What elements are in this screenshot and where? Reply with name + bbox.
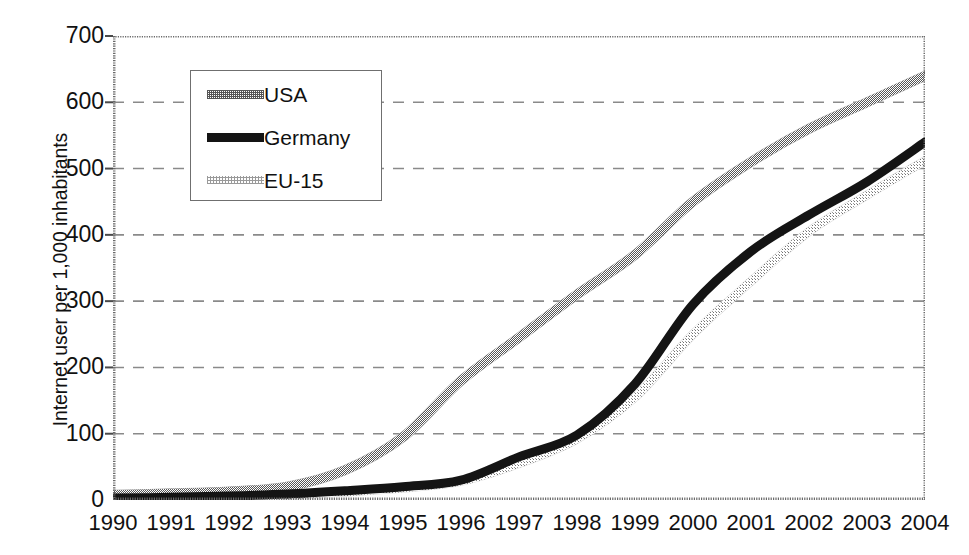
chart-figure: Internet user per 1,000 inhabitants 0100… — [0, 0, 969, 555]
y-tick-700: 700 — [32, 24, 104, 47]
y-tick-500: 500 — [32, 157, 104, 180]
x-tick-2004: 2004 — [885, 512, 965, 534]
y-tick-300: 300 — [32, 289, 104, 312]
legend-label-eu15: EU-15 — [264, 170, 324, 191]
legend-swatch-germany — [207, 133, 264, 142]
series-line-eu-15 — [113, 161, 925, 499]
y-tick-0: 0 — [32, 488, 104, 511]
legend-item-germany[interactable]: Germany — [191, 120, 383, 154]
legend-swatch-usa — [207, 90, 264, 99]
y-axis-tick-labels: 0100200300400500600700 — [28, 0, 104, 555]
legend: USA Germany EU-15 — [190, 70, 382, 201]
legend-label-germany: Germany — [264, 127, 350, 148]
legend-swatch-eu15 — [207, 176, 264, 184]
y-tick-200: 200 — [32, 355, 104, 378]
y-tick-600: 600 — [32, 90, 104, 113]
legend-item-usa[interactable]: USA — [191, 77, 383, 111]
legend-label-usa: USA — [264, 84, 307, 105]
legend-item-eu15[interactable]: EU-15 — [191, 163, 383, 197]
x-axis-tick-labels: 1990199119921993199419951996199719981999… — [0, 512, 969, 552]
y-tick-400: 400 — [32, 223, 104, 246]
y-tick-100: 100 — [32, 422, 104, 445]
